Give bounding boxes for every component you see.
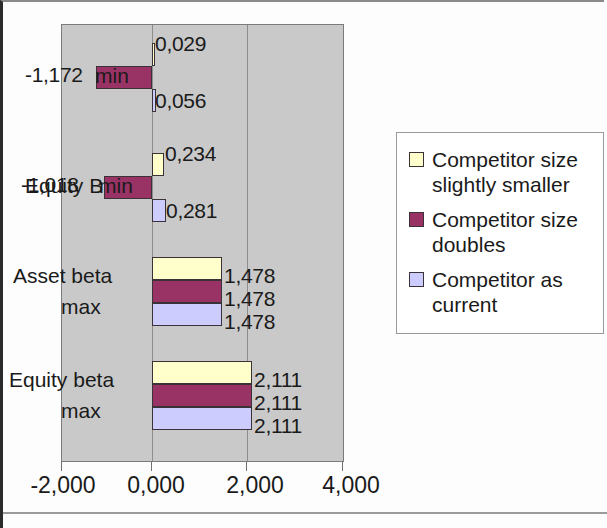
x-axis-label--2000: -2,000: [30, 472, 95, 499]
value-label-equity-beta-min-as-current: 0,281: [166, 199, 217, 223]
category-label-asset-beta-max-line2: max: [61, 294, 101, 320]
value-label-equity-beta-max-doubles: 2,111: [254, 391, 302, 415]
category-label-asset-beta-max-line1: Asset beta: [13, 263, 112, 289]
category-label-equity-beta-max-line1: Equity beta: [9, 367, 114, 393]
bar-equity-beta-max-doubles[interactable]: [152, 384, 252, 407]
legend-label-doubles: Competitor size doubles: [432, 207, 578, 257]
bar-asset-beta-max-slightly-smaller[interactable]: [152, 257, 222, 280]
bar-asset-beta-max-doubles[interactable]: [152, 280, 222, 303]
x-axis-ticks: [61, 462, 344, 472]
legend-swatch-slightly-smaller: [409, 152, 424, 167]
legend-item-as-current[interactable]: Competitor as current: [409, 267, 603, 317]
page-bottom-rule: [3, 512, 607, 514]
legend-swatch-doubles: [409, 212, 424, 227]
bar-equity-beta-min-as-current[interactable]: [152, 199, 166, 222]
legend-label-line1: Competitor size: [432, 148, 578, 171]
x-tick-2000: [246, 462, 247, 471]
value-label-asset-beta-min-slightly-smaller: 0,029: [155, 32, 206, 56]
legend-item-doubles[interactable]: Competitor size doubles: [409, 207, 603, 257]
value-label-equity-beta-max-as-current: 2,111: [254, 414, 302, 438]
legend-swatch-as-current: [409, 272, 424, 287]
value-label-equity-beta-max-slightly-smaller: 2,111: [254, 368, 302, 392]
legend-label-line1: Competitor as: [432, 268, 563, 291]
value-label-asset-beta-min-as-current: 0,056: [155, 89, 206, 113]
value-label-asset-beta-max-as-current: 1,478: [224, 310, 275, 334]
x-axis-label-4000: 4,000: [322, 472, 380, 499]
chart-legend: Competitor size slightly smaller Competi…: [396, 132, 604, 334]
bar-asset-beta-max-as-current[interactable]: [152, 303, 222, 326]
legend-label-slightly-smaller: Competitor size slightly smaller: [432, 147, 578, 197]
x-tick-4000: [342, 462, 343, 471]
value-label-asset-beta-min-doubles: -1,172: [25, 63, 83, 87]
x-axis-labels: -2,000 0,000 2,000 4,000: [3, 472, 403, 506]
value-label-asset-beta-max-slightly-smaller: 1,478: [224, 264, 275, 288]
x-axis-label-0000: 0,000: [127, 472, 185, 499]
category-label-equity-beta-min-part1: Equity B: [25, 173, 103, 199]
legend-label-line2: current: [432, 293, 497, 316]
value-label-equity-beta-min-slightly-smaller: 0,234: [165, 142, 216, 166]
bar-equity-beta-max-slightly-smaller[interactable]: [152, 361, 252, 384]
x-tick-0000: [151, 462, 152, 471]
legend-label-line2: slightly smaller: [432, 173, 570, 196]
category-label-equity-beta-max-line2: max: [61, 398, 101, 424]
bar-equity-beta-max-as-current[interactable]: [152, 407, 252, 430]
x-tick--2000: [61, 462, 62, 471]
legend-label-line2: doubles: [432, 233, 506, 256]
x-axis-label-2000: 2,000: [226, 472, 284, 499]
category-label-asset-beta-min: min: [95, 63, 129, 89]
value-label-asset-beta-max-doubles: 1,478: [224, 287, 275, 311]
category-label-equity-beta-min-part2: min: [99, 173, 133, 199]
legend-label-as-current: Competitor as current: [432, 267, 563, 317]
legend-item-slightly-smaller[interactable]: Competitor size slightly smaller: [409, 147, 603, 197]
legend-label-line1: Competitor size: [432, 208, 578, 231]
bar-equity-beta-min-slightly-smaller[interactable]: [152, 153, 164, 176]
